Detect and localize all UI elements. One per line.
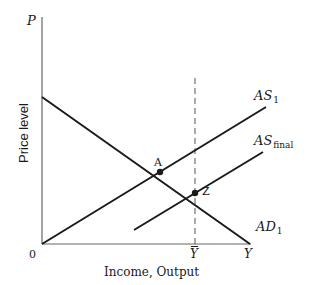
y-axis-label: Price level [17, 103, 30, 163]
potential-output-label: Y [190, 248, 198, 260]
as-final-label-sub: final [273, 140, 293, 150]
as-final-label-base: AS [254, 133, 272, 148]
as1-label-sub: 1 [273, 95, 279, 105]
ad1-label-sub: 1 [277, 226, 283, 236]
point-a-label: A [154, 157, 162, 168]
ad1-label-base: AD [256, 219, 276, 234]
point-z-marker [192, 190, 198, 196]
as1-label: AS1 [254, 89, 279, 105]
as-final-label: ASfinal [254, 134, 293, 150]
as1-curve [42, 107, 266, 244]
y-axis-symbol: P [27, 14, 36, 27]
x-axis-symbol: Y [244, 248, 252, 260]
point-a-marker [157, 169, 163, 175]
as1-label-base: AS [254, 88, 272, 103]
origin-label: 0 [29, 249, 36, 260]
ad1-label: AD1 [256, 220, 283, 236]
x-axis-label: Income, Output [104, 266, 199, 278]
y-bar-symbol: Y [190, 248, 198, 260]
as-ad-diagram: P Price level 0 Y Y Income, Output AS1 A… [0, 0, 312, 285]
point-z-label: Z [202, 186, 210, 197]
